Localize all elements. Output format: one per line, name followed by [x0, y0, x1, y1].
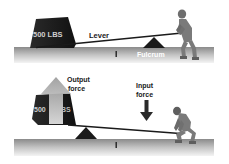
- ground-bottom: [14, 139, 214, 156]
- weight-label-bottom-left: 500: [34, 106, 46, 113]
- input-force-arrow: [140, 100, 153, 121]
- center-tick-top: [116, 51, 117, 57]
- lever-diagram: 500 LBS Lever Fulcrum: [0, 0, 229, 164]
- input-force-label-line1: Input: [136, 82, 154, 90]
- fulcrum-label: Fulcrum: [137, 51, 165, 58]
- weight-label-top: 500 LBS: [33, 30, 63, 39]
- fulcrum-top: [143, 37, 165, 48]
- person-bottom: [173, 107, 196, 144]
- input-force-label-line2: force: [136, 91, 153, 98]
- fulcrum-bottom: [75, 127, 97, 139]
- output-force-label-line2: force: [68, 85, 85, 92]
- bottom-panel: 500 BS Output force Input force: [14, 76, 214, 156]
- top-panel: 500 LBS Lever Fulcrum: [14, 9, 214, 63]
- output-force-label-line1: Output: [67, 76, 91, 84]
- center-tick-bottom: [116, 142, 117, 148]
- weight-label-bottom-right: BS: [61, 106, 71, 113]
- lever-label: Lever: [89, 31, 109, 40]
